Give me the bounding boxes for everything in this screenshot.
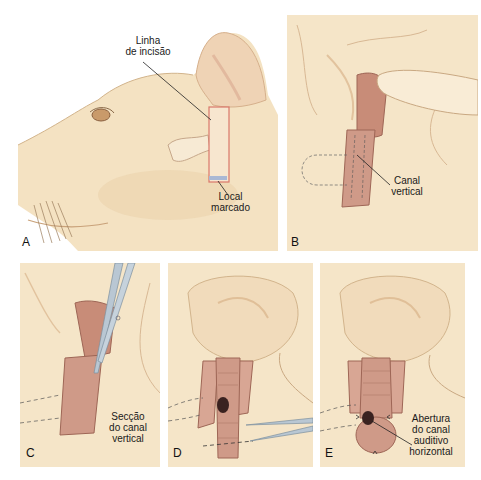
label-linha-de-incisao: Linha de incisão (118, 35, 178, 57)
label-local-marcado: Local marcado (203, 191, 258, 213)
panel-c: Secção do canal vertical C (20, 263, 160, 467)
panel-letter-b: B (291, 235, 299, 249)
panel-e: Abertura do canal auditivo horizontal E (320, 263, 465, 467)
panel-b: Canal vertical B (287, 15, 478, 251)
panel-letter-e: E (325, 446, 333, 460)
panel-a: Linha de incisão Local marcado A (18, 15, 278, 251)
label-canal-vertical: Canal vertical (382, 175, 432, 197)
canal-exposure-illustration (287, 15, 478, 251)
panel-letter-c: C (26, 446, 35, 460)
horizontal-canal-cut-illustration (168, 263, 313, 467)
panel-d: D (168, 263, 313, 467)
panel-letter-a: A (22, 235, 30, 249)
label-abertura-do-canal-auditivo-horizontal: Abertura do canal auditivo horizontal (398, 413, 464, 457)
panel-letter-d: D (173, 446, 182, 460)
label-seccao-do-canal-vertical: Secção do canal vertical (98, 411, 158, 444)
